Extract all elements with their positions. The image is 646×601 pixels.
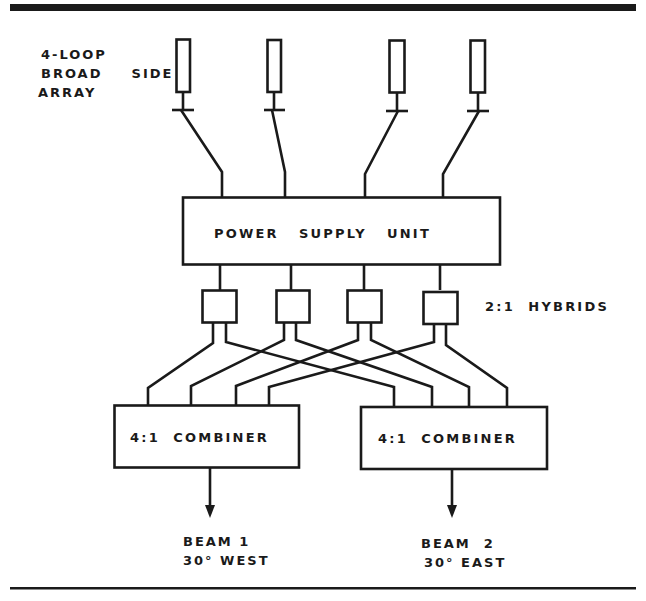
hybrid-1 — [203, 291, 237, 323]
antenna-loop-2 — [264, 40, 285, 197]
combiner-2-label: 4:1 COMBINER — [378, 431, 517, 446]
power-supply-unit-label: POWER SUPPLY UNIT — [214, 226, 431, 241]
array-label-line-1: 4-LOOP — [41, 45, 173, 64]
antenna-loop-1 — [172, 40, 222, 198]
arrow-down-icon — [205, 505, 215, 518]
beam-2-direction: 30° EAST — [424, 553, 506, 572]
hybrids-label: 2:1 HYBRIDS — [485, 299, 609, 314]
arrow-down-icon — [447, 505, 457, 518]
beam-1-label: BEAM 1 — [183, 532, 270, 551]
array-label-line-3: ARRAY — [38, 83, 173, 102]
antenna-loop-4 — [443, 41, 489, 198]
beam-2-output: BEAM 2 30° EAST — [421, 534, 506, 572]
combiner-1-label: 4:1 COMBINER — [130, 430, 269, 445]
hybrid-4 — [424, 292, 458, 324]
diagram-canvas: 4-LOOP BROAD SIDE ARRAY POWER SUPPLY UNI… — [0, 0, 646, 601]
hybrid-3 — [348, 291, 382, 323]
hybrid-2 — [277, 291, 310, 323]
array-label: 4-LOOP BROAD SIDE ARRAY — [38, 45, 173, 102]
array-label-line-2: BROAD SIDE — [41, 64, 173, 83]
beam-1-output: BEAM 1 30° WEST — [183, 532, 270, 570]
top-rule — [10, 4, 636, 11]
beam-2-label: BEAM 2 — [421, 534, 506, 553]
antenna-loop-3 — [365, 41, 408, 198]
beam-1-direction: 30° WEST — [183, 551, 270, 570]
bottom-rule — [10, 587, 636, 590]
